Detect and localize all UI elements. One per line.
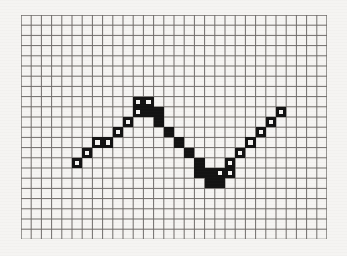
wave-cell-hollow: [225, 158, 235, 168]
wave-cell-hollow: [133, 107, 143, 117]
wave-cell-filled: [194, 158, 204, 168]
wave-cell-hollow: [82, 148, 92, 158]
wave-cell-hollow: [113, 127, 123, 137]
wave-cell-hollow: [72, 158, 82, 168]
wave-cell-filled: [205, 178, 215, 188]
wave-cell-hollow: [245, 137, 255, 147]
wave-cell-filled: [184, 148, 194, 158]
wave-cell-hollow: [276, 107, 286, 117]
wave-cell-filled: [174, 137, 184, 147]
wave-cell-filled: [194, 168, 204, 178]
wave-cell-hollow: [133, 97, 143, 107]
grid-plot-area: [21, 15, 327, 239]
wave-cell-hollow: [225, 168, 235, 178]
wave-cell-hollow: [235, 148, 245, 158]
wave-cell-filled: [215, 178, 225, 188]
wave-cell-hollow: [215, 168, 225, 178]
wave-cell-hollow: [143, 97, 153, 107]
wave-cell-filled: [154, 107, 164, 117]
wave-cell-filled: [164, 127, 174, 137]
wave-cell-hollow: [103, 137, 113, 147]
wave-cell-hollow: [256, 127, 266, 137]
figure-canvas: [0, 0, 347, 256]
wave-cell-hollow: [92, 137, 102, 147]
wave-cell-filled: [143, 107, 153, 117]
wave-cell-hollow: [123, 117, 133, 127]
wave-cell-hollow: [266, 117, 276, 127]
wave-cell-filled: [154, 117, 164, 127]
wave-cell-filled: [205, 168, 215, 178]
wave-cells-layer: [21, 15, 327, 239]
